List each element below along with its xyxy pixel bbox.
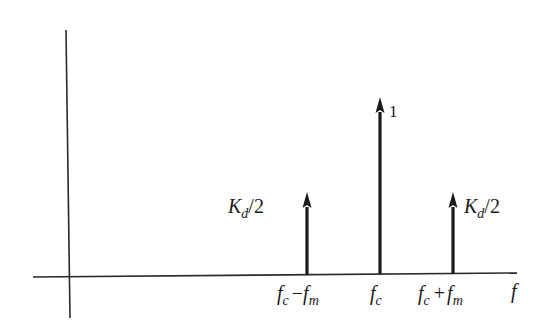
position-label-upper: fc+fm: [418, 282, 463, 308]
vertical-axis: [66, 30, 70, 318]
arrow-up-icon: [376, 97, 385, 113]
position-label-carrier: fc: [370, 282, 383, 308]
amplitude-label-upper: Kd/2: [463, 195, 500, 221]
amplitude-label-lower: Kd/2: [227, 195, 264, 221]
position-label-lower: fc−fm: [277, 282, 319, 308]
impulse-lower-sideband: [303, 192, 312, 275]
spectrum-diagram: Kd/2 1 Kd/2 fc−fm fc fc+fm f: [0, 0, 556, 333]
impulse-carrier: [376, 97, 385, 274]
horizontal-axis: [33, 273, 517, 277]
arrow-up-icon: [303, 192, 312, 208]
impulse-upper-sideband: [449, 192, 458, 274]
amplitude-label-carrier: 1: [389, 102, 398, 121]
arrow-up-icon: [449, 192, 458, 208]
x-axis-label: f: [511, 280, 519, 303]
